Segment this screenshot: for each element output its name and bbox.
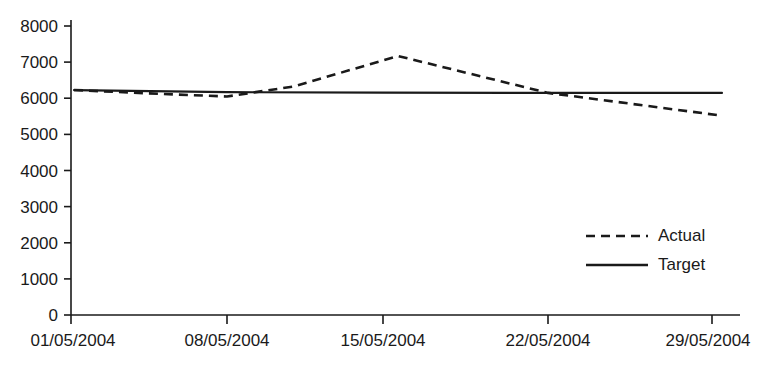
y-tick-label-7000: 7000 <box>0 54 58 71</box>
legend-label-actual: Actual <box>658 226 705 246</box>
x-axis-ticks <box>71 315 712 324</box>
series-line-target <box>74 90 722 93</box>
y-tick-label-5000: 5000 <box>0 126 58 143</box>
y-tick-label-2000: 2000 <box>0 235 58 252</box>
y-tick-label-6000: 6000 <box>0 90 58 107</box>
y-axis-ticks <box>64 26 71 315</box>
y-tick-label-0: 0 <box>0 307 58 324</box>
x-tick-label-22-05-2004: 22/05/2004 <box>505 332 590 349</box>
chart-plot-area <box>0 0 772 367</box>
series-line-actual <box>74 56 722 116</box>
x-tick-label-08-05-2004: 08/05/2004 <box>184 332 269 349</box>
legend-label-target: Target <box>658 255 705 275</box>
x-tick-label-01-05-2004: 01/05/2004 <box>30 332 115 349</box>
x-tick-label-29-05-2004: 29/05/2004 <box>665 332 750 349</box>
y-tick-label-4000: 4000 <box>0 163 58 180</box>
line-chart: 8000 7000 6000 5000 4000 3000 2000 1000 … <box>0 0 772 367</box>
y-tick-label-3000: 3000 <box>0 199 58 216</box>
x-tick-label-15-05-2004: 15/05/2004 <box>340 332 425 349</box>
y-tick-label-1000: 1000 <box>0 271 58 288</box>
y-tick-label-8000: 8000 <box>0 18 58 35</box>
